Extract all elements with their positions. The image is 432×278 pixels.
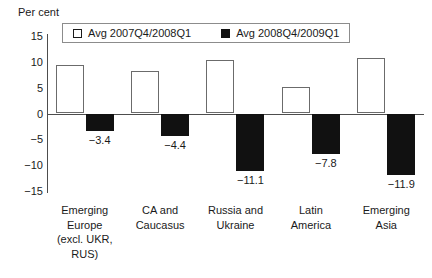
y-tick-label: 5 — [9, 83, 43, 94]
legend-swatch-filled-icon — [221, 29, 230, 38]
x-category-label: EmergingEurope(excl. UKR,RUS) — [43, 203, 126, 261]
y-tick-label: −15 — [9, 186, 43, 197]
y-axis-ticks: 151050−5−10−15 — [7, 36, 43, 191]
x-category-label-line: America — [269, 218, 352, 233]
legend-label-1: Avg 2008Q4/2009Q1 — [236, 28, 339, 39]
bar-group: −11.9 — [349, 36, 424, 191]
x-category-label-line: Emerging — [43, 203, 126, 218]
legend-entry-0: Avg 2007Q4/2008Q1 — [73, 28, 191, 39]
x-category-label-line: Russia and — [194, 203, 277, 218]
bar-value-label: −11.1 — [226, 174, 274, 186]
bar-prev-period — [357, 58, 385, 114]
bar-group: −11.1 — [198, 36, 273, 191]
bar-group: −3.4 — [47, 36, 122, 191]
x-category-label-line: Ukraine — [194, 218, 277, 233]
x-category-label: EmergingAsia — [345, 203, 428, 232]
y-axis-title: Per cent — [18, 6, 59, 19]
x-category-label-line: Caucasus — [118, 218, 201, 233]
bar-crisis-period — [312, 114, 340, 154]
bar-crisis-period — [387, 114, 415, 175]
x-category-label: LatinAmerica — [269, 203, 352, 232]
x-category-label-line: (excl. UKR, — [43, 232, 126, 247]
legend-entry-1: Avg 2008Q4/2009Q1 — [221, 28, 339, 39]
x-category-label: CA andCaucasus — [118, 203, 201, 232]
bar-value-label: −11.9 — [377, 178, 425, 190]
x-category-label-line: Asia — [345, 218, 428, 233]
bar-prev-period — [206, 60, 234, 114]
x-category-label: Russia andUkraine — [194, 203, 277, 232]
y-tick-label: 15 — [9, 31, 43, 42]
x-category-label-line: RUS) — [43, 247, 126, 262]
plot-area: −3.4−4.4−11.1−7.8−11.9 — [47, 36, 424, 191]
bar-group: −4.4 — [122, 36, 197, 191]
bar-prev-period — [282, 87, 310, 114]
x-category-label-line: Emerging — [345, 203, 428, 218]
bar-group: −7.8 — [273, 36, 348, 191]
bar-chart: Per cent 151050−5−10−15 −3.4−4.4−11.1−7.… — [0, 0, 432, 278]
chart-legend: Avg 2007Q4/2008Q1 Avg 2008Q4/2009Q1 — [62, 23, 350, 43]
x-category-label-line: Europe — [43, 218, 126, 233]
y-tick-label: 0 — [9, 109, 43, 120]
bar-value-label: −7.8 — [302, 157, 350, 169]
bar-crisis-period — [161, 114, 189, 137]
legend-label-0: Avg 2007Q4/2008Q1 — [88, 28, 191, 39]
x-category-label-line: Latin — [269, 203, 352, 218]
bar-value-label: −4.4 — [151, 139, 199, 151]
bar-prev-period — [131, 71, 159, 114]
x-category-label-line: CA and — [118, 203, 201, 218]
bar-crisis-period — [236, 114, 264, 171]
y-tick-label: −5 — [9, 134, 43, 145]
bar-crisis-period — [86, 114, 114, 132]
bar-value-label: −3.4 — [76, 134, 124, 146]
y-tick-label: 10 — [9, 57, 43, 68]
bar-prev-period — [56, 65, 84, 113]
y-tick-label: −10 — [9, 160, 43, 171]
legend-swatch-open-icon — [73, 29, 82, 38]
